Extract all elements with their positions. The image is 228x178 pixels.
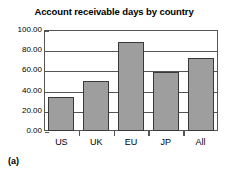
y-axis-tick-label: 40.00	[0, 87, 42, 95]
x-axis-tick-mark	[79, 131, 81, 136]
x-axis-tick-mark	[114, 131, 116, 136]
x-axis-tick-mark	[183, 131, 185, 136]
figure-panel: Account receivable days by country 0.002…	[0, 0, 228, 178]
bar-all	[188, 58, 214, 131]
y-axis-labels: 0.0020.0040.0060.0080.00100.00	[0, 0, 42, 178]
x-axis-tick-label: All	[181, 137, 221, 147]
bar-uk	[83, 81, 109, 132]
bar-us	[48, 97, 74, 131]
y-axis-tick-label: 80.00	[0, 46, 42, 54]
y-axis-tick-label: 100.00	[0, 26, 42, 34]
figure-caption: (a)	[8, 156, 19, 166]
y-axis-tick-label: 20.00	[0, 107, 42, 115]
x-axis-tick-mark	[148, 131, 150, 136]
bar-eu	[118, 42, 144, 131]
y-axis-tick-label: 0.00	[0, 127, 42, 135]
y-axis-tick-label: 60.00	[0, 66, 42, 74]
bar-jp	[153, 72, 179, 131]
bars-layer	[44, 30, 218, 131]
y-axis-tick-mark	[45, 132, 49, 133]
